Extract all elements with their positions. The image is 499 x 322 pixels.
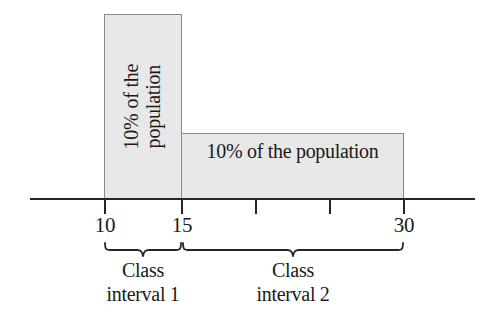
histogram-figure: 10% of the population 10% of the populat…: [0, 0, 499, 322]
group-2-line2: interval 2: [203, 282, 383, 306]
axis-tick-15: [181, 200, 183, 214]
brace-2-icon: [182, 242, 404, 258]
bar1-label-line2: population: [143, 64, 165, 150]
axis-tick-10: [104, 200, 106, 214]
bar1-label-line1: 10% of the: [121, 64, 143, 150]
axis-tick-label-15: 15: [152, 213, 212, 238]
axis-tick-label-10: 10: [75, 213, 135, 238]
group-caption-class-interval-2: Class interval 2: [203, 258, 383, 307]
bar-class-interval-2-label: 10% of the population: [181, 140, 404, 163]
group-2-line1: Class: [203, 258, 383, 282]
axis-tick-25: [329, 200, 331, 214]
bar-class-interval-1-label: 10% of the population: [104, 14, 182, 200]
brace-1-icon: [104, 242, 182, 258]
axis-tick-label-30: 30: [374, 213, 434, 238]
brace-class-interval-2: [182, 242, 404, 258]
x-axis-line: [30, 198, 475, 200]
brace-class-interval-1: [104, 242, 182, 258]
axis-tick-30: [403, 200, 405, 214]
axis-tick-20: [255, 200, 257, 214]
